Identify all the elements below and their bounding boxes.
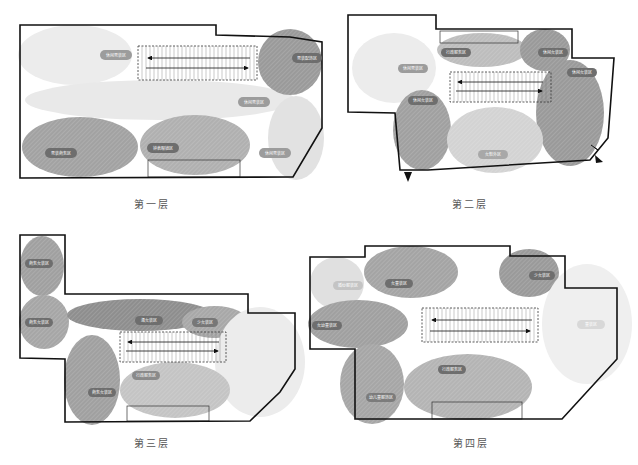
floor-4-caption: 第四层 — [453, 435, 489, 450]
floor-4-plan: 婚纱服装区 女童装区 少女装区 女幼童装区 童装区 行政服务区 幼儿童服饰区 — [308, 246, 632, 424]
zone-label: 童装区 — [585, 321, 597, 327]
floor-2-plan: 休闲男装区 行政服务区 休闲女装区 休闲女装区 休闲女装区 女鞋外区 — [348, 15, 614, 182]
zone-label: 婚纱服装区 — [338, 282, 358, 288]
floor-2-caption: 第二层 — [452, 196, 488, 211]
zone-label: 少女装区 — [534, 272, 550, 278]
zone-label: 商务女装区 — [92, 389, 112, 395]
zone-label: 女童装区 — [391, 280, 407, 286]
floor-1-caption: 第一层 — [134, 196, 170, 211]
zone-label: 休闲男装区 — [403, 65, 423, 71]
zone-label: 休闲女装区 — [413, 97, 433, 103]
zone-label: 行政服务区 — [442, 366, 462, 372]
zone-label: 少女装区 — [197, 319, 213, 325]
zone-label: 行政服务区 — [136, 372, 156, 378]
zone-label: 休闲女装区 — [543, 49, 563, 55]
zone-label: 行政服务区 — [446, 49, 466, 55]
zone-label: 幼儿童服饰区 — [369, 394, 393, 400]
floor-3-plan: 商务女装区 商务女装区 淑女装区 少女装区 商务女装区 行政服务区 — [19, 235, 305, 425]
zone-label: 休闲男装区 — [106, 52, 126, 58]
zone-label: 钟表眼镜区 — [153, 145, 173, 151]
zone-label: 休闲男装区 — [265, 150, 285, 156]
zone-label: 淑女装区 — [141, 317, 157, 323]
zone-label: 女鞋外区 — [485, 151, 501, 157]
floor-plans: 休闲男装区 男装配饰区 休闲男装区 男装商务区 钟表眼镜区 休闲男装区 — [0, 0, 638, 465]
zone-label: 男装商务区 — [51, 150, 71, 156]
zone-label: 女幼童装区 — [317, 322, 337, 328]
zone-label: 休闲女装区 — [572, 69, 592, 75]
zone-label: 商务女装区 — [29, 260, 49, 266]
floor-1-plan: 休闲男装区 男装配饰区 休闲男装区 男装商务区 钟表眼镜区 休闲男装区 — [18, 25, 324, 180]
zone-label: 男装配饰区 — [297, 55, 317, 61]
zone-label: 商务女装区 — [29, 319, 49, 325]
floor-3-caption: 第三层 — [134, 435, 170, 450]
zone-label: 休闲男装区 — [244, 99, 264, 105]
